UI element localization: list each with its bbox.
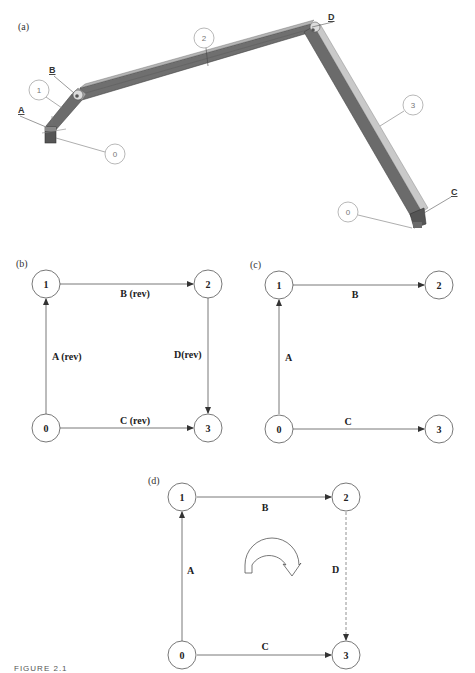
node-b-0-label: 0 [44,423,49,434]
node-d-2-label: 2 [344,492,349,503]
link-3-rocker [304,24,428,218]
panel-d-label: (d) [148,475,160,487]
callout-0-right-text: 0 [346,208,351,217]
figure-canvas: (a) [0,0,475,673]
edge-b-label-c: C (rev) [120,415,150,427]
joint-c-text: C [451,187,458,197]
callout-3-text: 3 [411,101,416,110]
panel-b-label: (b) [16,258,28,270]
joint-b-text: B [49,65,56,75]
callout-link-3: 3 [380,95,423,126]
node-c-2-label: 2 [437,280,442,291]
node-d-0-label: 0 [180,650,185,661]
edge-d-label-b: B [262,502,269,513]
node-d-1-label: 1 [180,492,185,503]
callout-2-text: 2 [202,34,207,43]
node-d-3-label: 3 [344,650,349,661]
node-b-2-label: 2 [206,279,211,290]
edge-c-label-a: A [285,352,293,363]
edge-d-label-a: A [187,565,195,576]
node-c-0-label: 0 [277,424,282,435]
callout-link-0-left: 0 [56,138,125,164]
edge-c-label-c: C [344,416,351,427]
joint-label-a: A [18,105,46,127]
joint-a-text: A [18,105,25,115]
joint-label-b: B [49,65,74,93]
edge-b-label-a: A (rev) [52,351,82,363]
panel-c-label: (c) [250,259,261,271]
edge-b-label-b: B (rev) [120,288,150,300]
node-b-3-label: 3 [206,423,211,434]
callout-0-left-text: 0 [113,150,118,159]
callout-link-1: 1 [29,80,62,108]
panel-a: (a) [18,12,458,228]
figure-caption: FIGURE 2.1 [14,664,68,673]
clockwise-loop-arrow-icon [245,538,301,576]
edge-c-label-b: B [352,289,359,300]
panel-b: (b) 1 2 0 3 B (rev) A (rev) D(rev) C (re… [16,258,222,442]
panel-c: (c) 1 2 0 3 B A C [250,259,453,443]
edge-d-label-c: C [261,641,268,652]
node-c-3-label: 3 [437,424,442,435]
joint-b-hole [75,94,79,98]
edge-d-label-d: D [332,564,339,575]
callout-link-0-right: 0 [338,202,412,228]
callout-1-text: 1 [37,86,42,95]
panel-a-label: (a) [18,21,29,33]
joint-d-hole [311,28,315,32]
joint-d-text: D [328,12,335,22]
edge-b-label-d: D(rev) [174,349,202,361]
panel-d: (d) 1 2 0 3 B A D C [148,475,360,669]
node-c-1-label: 1 [277,280,282,291]
joint-label-c: C [424,187,458,213]
node-b-1-label: 1 [44,279,49,290]
